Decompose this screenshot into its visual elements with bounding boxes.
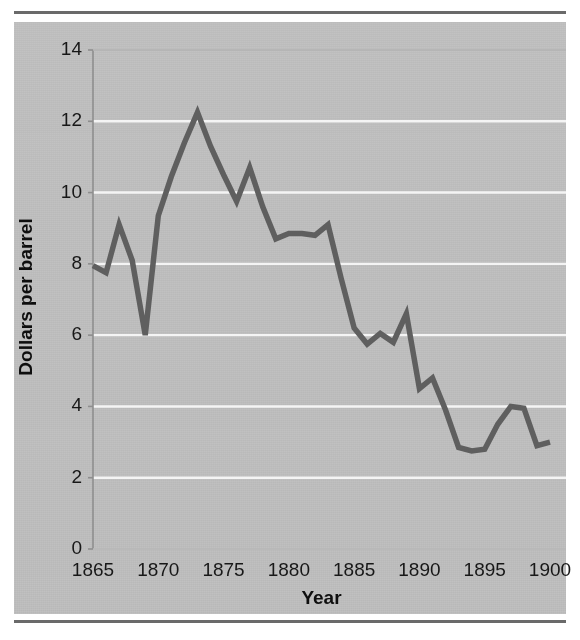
chart-figure: 02468101214 1865187018751880188518901895… xyxy=(0,0,580,640)
y-tick-label-14: 14 xyxy=(61,38,82,60)
x-tick-label-1890: 1890 xyxy=(389,559,449,581)
x-tick-label-1880: 1880 xyxy=(259,559,319,581)
x-tick-label-1900: 1900 xyxy=(520,559,580,581)
y-tick-label-2: 2 xyxy=(71,466,82,488)
y-tick-label-0: 0 xyxy=(71,537,82,559)
y-tick-label-12: 12 xyxy=(61,109,82,131)
y-tick-label-8: 8 xyxy=(71,252,82,274)
x-tick-label-1885: 1885 xyxy=(324,559,384,581)
x-tick-label-1895: 1895 xyxy=(455,559,515,581)
x-tick-label-1870: 1870 xyxy=(128,559,188,581)
axis-lines xyxy=(93,50,566,549)
y-tick-label-4: 4 xyxy=(71,394,82,416)
y-tick-label-6: 6 xyxy=(71,323,82,345)
y-axis-title: Dollars per barrel xyxy=(15,217,37,377)
x-tick-label-1875: 1875 xyxy=(194,559,254,581)
y-tick-label-10: 10 xyxy=(61,181,82,203)
plot-area xyxy=(0,0,580,640)
x-axis-title: Year xyxy=(242,587,402,609)
data-line-dollars-per-barrel xyxy=(93,112,550,451)
x-tick-label-1865: 1865 xyxy=(63,559,123,581)
